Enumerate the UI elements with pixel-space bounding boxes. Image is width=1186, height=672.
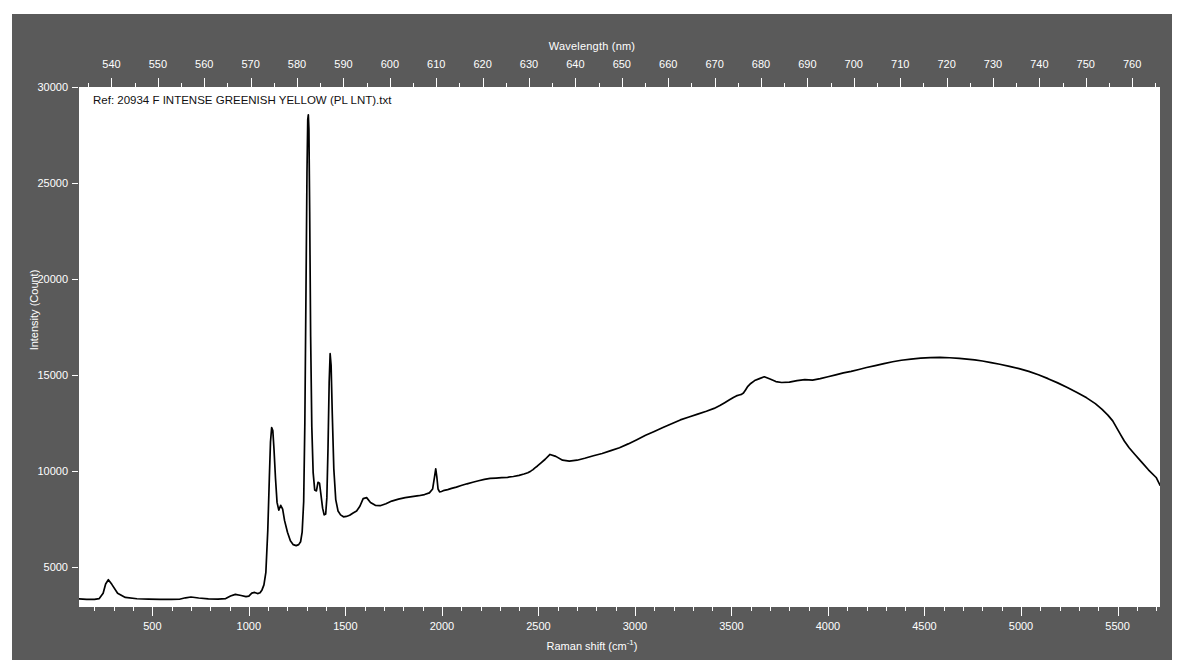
- top-axis-tick: [807, 78, 808, 87]
- bottom-axis-tick: [1137, 607, 1138, 611]
- top-axis-tick: [947, 78, 948, 87]
- bottom-axis-tick: [538, 607, 539, 616]
- bottom-axis-tick: [558, 607, 559, 611]
- bottom-axis-tick: [1021, 607, 1022, 616]
- y-axis-tick: [72, 183, 78, 184]
- top-axis-tick: [529, 78, 530, 87]
- bottom-axis-tick: [654, 607, 655, 611]
- bottom-axis-tick: [809, 607, 810, 611]
- bottom-axis-tick-label: 500: [143, 620, 161, 632]
- bottom-axis-tick: [114, 607, 115, 611]
- bottom-axis-tick: [674, 607, 675, 611]
- top-axis-tick-label: 540: [102, 58, 120, 70]
- bottom-axis-tick: [731, 607, 732, 616]
- page-margin-right: [1172, 0, 1186, 672]
- bottom-axis-tick: [1002, 607, 1003, 611]
- top-axis-tick-label: 560: [195, 58, 213, 70]
- top-axis-tick-label: 630: [520, 58, 538, 70]
- bottom-axis-tick: [133, 607, 134, 611]
- top-axis-tick-label: 660: [659, 58, 677, 70]
- y-axis-tick-label: 15000: [37, 369, 68, 381]
- y-axis-ticks: [72, 14, 79, 660]
- top-axis-tick-label: 680: [752, 58, 770, 70]
- bottom-axis-tick: [886, 607, 887, 611]
- y-axis-tick-label: 5000: [44, 561, 68, 573]
- top-axis-tick: [158, 78, 159, 87]
- bottom-axis-tick-label: 4000: [816, 620, 840, 632]
- plot-area[interactable]: Ref: 20934 F INTENSE GREENISH YELLOW (PL…: [79, 87, 1160, 607]
- bottom-axis-tick: [307, 607, 308, 611]
- bottom-axis-tick: [423, 607, 424, 611]
- bottom-axis-tick: [365, 607, 366, 611]
- bottom-axis-tick: [461, 607, 462, 611]
- top-axis-tick-label: 650: [613, 58, 631, 70]
- bottom-axis-tick: [326, 607, 327, 611]
- spectrum-trace: [79, 87, 1160, 607]
- bottom-axis-title-tail: ): [634, 640, 638, 652]
- bottom-axis-tick: [963, 607, 964, 611]
- top-axis-tick: [900, 78, 901, 87]
- bottom-axis-tick: [770, 607, 771, 611]
- y-axis-tick: [72, 471, 78, 472]
- top-axis-tick: [761, 78, 762, 87]
- bottom-axis-tick: [905, 607, 906, 611]
- bottom-axis-tick-label: 2000: [430, 620, 454, 632]
- top-axis-tick-label: 580: [288, 58, 306, 70]
- bottom-axis-tick: [924, 607, 925, 616]
- bottom-axis-tick-labels: 5001000150020002500300035004000450050005…: [12, 620, 1172, 634]
- bottom-axis-tick: [287, 607, 288, 611]
- top-axis-tick-label: 570: [241, 58, 259, 70]
- top-axis-tick: [854, 78, 855, 87]
- top-axis-tick: [575, 78, 576, 87]
- bottom-axis-tick: [230, 607, 231, 611]
- bottom-axis-tick-label: 3500: [719, 620, 743, 632]
- bottom-axis-title-main: Raman shift (cm: [547, 640, 627, 652]
- bottom-axis-tick: [867, 607, 868, 611]
- y-axis-tick: [72, 87, 78, 88]
- top-axis-tick: [1039, 78, 1040, 87]
- bottom-axis-tick: [1060, 607, 1061, 611]
- bottom-axis-tick: [249, 607, 250, 616]
- bottom-axis-tick: [1156, 607, 1157, 611]
- bottom-axis-tick: [384, 607, 385, 611]
- bottom-axis-tick: [577, 607, 578, 611]
- top-axis-tick-label: 620: [473, 58, 491, 70]
- bottom-axis-title: Raman shift (cm-1): [12, 638, 1172, 652]
- top-axis-tick: [715, 78, 716, 87]
- top-axis-tick: [668, 78, 669, 87]
- bottom-axis-tick: [847, 607, 848, 611]
- top-axis-tick: [297, 78, 298, 87]
- bottom-axis-tick-label: 2500: [526, 620, 550, 632]
- top-axis-tick: [390, 78, 391, 87]
- y-axis-tick: [72, 279, 78, 280]
- top-axis-tick: [1086, 78, 1087, 87]
- top-axis-tick: [343, 78, 344, 87]
- top-axis-tick: [204, 78, 205, 87]
- bottom-axis-tick-label: 5500: [1105, 620, 1129, 632]
- bottom-axis-tick: [1118, 607, 1119, 616]
- bottom-axis-ticks: [12, 607, 1172, 619]
- bottom-axis-tick: [828, 607, 829, 616]
- top-axis-ticks: [12, 74, 1172, 87]
- bottom-axis-tick-label: 4500: [912, 620, 936, 632]
- bottom-axis-tick: [1098, 607, 1099, 611]
- y-axis-tick-label: 25000: [37, 177, 68, 189]
- bottom-axis-tick: [1040, 607, 1041, 611]
- spectrum-viewer-window: Wavelength (nm) 540550560570580590600610…: [0, 0, 1186, 672]
- y-axis-tick: [72, 375, 78, 376]
- bottom-axis-tick: [210, 607, 211, 611]
- page-margin-left: [0, 0, 12, 672]
- bottom-axis-title-exponent: -1: [627, 638, 634, 647]
- top-axis-tick: [622, 78, 623, 87]
- y-axis-tick: [72, 567, 78, 568]
- top-axis-tick: [436, 78, 437, 87]
- bottom-axis-tick: [481, 607, 482, 611]
- bottom-axis-tick: [712, 607, 713, 611]
- bottom-axis-tick: [982, 607, 983, 611]
- bottom-axis-tick: [596, 607, 597, 611]
- top-axis-tick-label: 690: [798, 58, 816, 70]
- bottom-axis-tick: [152, 607, 153, 616]
- top-axis-tick-label: 720: [937, 58, 955, 70]
- bottom-axis-tick: [268, 607, 269, 611]
- bottom-axis-tick: [944, 607, 945, 611]
